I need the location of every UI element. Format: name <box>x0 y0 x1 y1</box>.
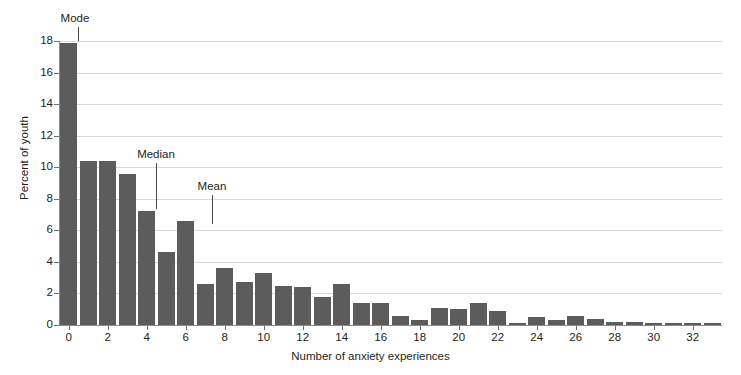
x-tick-label: 26 <box>556 331 596 343</box>
bar <box>80 161 97 325</box>
x-tick-label: 4 <box>127 331 167 343</box>
x-tick-label: 30 <box>634 331 674 343</box>
bar <box>450 309 467 325</box>
y-tick-mark <box>54 41 59 42</box>
annotation-line-median <box>156 163 157 209</box>
bar <box>372 303 389 325</box>
bar <box>255 273 272 325</box>
x-tick-label: 22 <box>478 331 518 343</box>
y-tick-label: 6 <box>47 224 53 235</box>
y-tick-mark <box>54 293 59 294</box>
x-tick-mark <box>186 326 187 330</box>
x-tick-mark <box>654 326 655 330</box>
bar <box>138 211 155 325</box>
gridline <box>59 230 722 231</box>
bar <box>119 174 136 325</box>
bar-chart-figure: Percent of youth 024681012141618 0246810… <box>0 0 741 375</box>
x-tick-mark <box>147 326 148 330</box>
x-tick-mark <box>459 326 460 330</box>
y-axis-line <box>59 41 60 325</box>
x-tick-label: 0 <box>49 331 89 343</box>
x-tick-mark <box>264 326 265 330</box>
x-tick-mark <box>381 326 382 330</box>
x-tick-label: 10 <box>244 331 284 343</box>
bar <box>567 316 584 325</box>
bar <box>236 282 253 325</box>
bar <box>353 303 370 325</box>
bar <box>431 308 448 325</box>
x-tick-mark <box>342 326 343 330</box>
annotation-label-median: Median <box>137 148 175 160</box>
bar <box>216 268 233 325</box>
annotation-line-mode <box>78 27 79 41</box>
bar <box>275 286 292 325</box>
bar <box>99 161 116 325</box>
x-tick-label: 6 <box>166 331 206 343</box>
x-tick-label: 18 <box>400 331 440 343</box>
annotation-line-mean <box>212 195 213 224</box>
x-tick-mark <box>537 326 538 330</box>
y-tick-label: 0 <box>47 319 53 330</box>
x-tick-mark <box>225 326 226 330</box>
y-tick-label: 12 <box>40 130 53 141</box>
x-tick-label: 28 <box>595 331 635 343</box>
x-tick-mark <box>108 326 109 330</box>
gridline <box>59 104 722 105</box>
gridline <box>59 167 722 168</box>
y-tick-label: 16 <box>40 67 53 78</box>
y-tick-mark <box>54 136 59 137</box>
y-tick-label: 2 <box>47 287 53 298</box>
y-tick-label: 4 <box>47 256 53 267</box>
x-tick-mark <box>420 326 421 330</box>
x-axis-line <box>59 325 722 326</box>
y-tick-mark <box>54 262 59 263</box>
y-tick-mark <box>54 230 59 231</box>
x-tick-mark <box>576 326 577 330</box>
bar <box>528 317 545 325</box>
bar <box>177 221 194 325</box>
annotation-label-mode: Mode <box>61 12 90 24</box>
x-tick-label: 20 <box>439 331 479 343</box>
plot-area <box>59 41 722 325</box>
x-tick-label: 24 <box>517 331 557 343</box>
annotation-label-mean: Mean <box>198 180 227 192</box>
y-tick-mark <box>54 104 59 105</box>
bar <box>489 311 506 325</box>
x-tick-label: 12 <box>283 331 323 343</box>
bar <box>314 297 331 325</box>
bar <box>158 252 175 325</box>
y-tick-label: 8 <box>47 193 53 204</box>
y-tick-mark <box>54 73 59 74</box>
gridline <box>59 136 722 137</box>
x-tick-label: 32 <box>673 331 713 343</box>
x-axis-title: Number of anxiety experiences <box>0 350 741 362</box>
bar <box>197 284 214 325</box>
gridline <box>59 199 722 200</box>
y-tick-mark <box>54 199 59 200</box>
bar <box>294 287 311 325</box>
gridline <box>59 41 722 42</box>
y-tick-label: 18 <box>40 35 53 46</box>
y-axis-tick-labels: 024681012141618 <box>0 0 53 375</box>
x-tick-label: 8 <box>205 331 245 343</box>
y-tick-label: 14 <box>40 98 53 109</box>
bar <box>392 316 409 325</box>
y-tick-mark <box>54 167 59 168</box>
x-tick-mark <box>498 326 499 330</box>
x-tick-mark <box>615 326 616 330</box>
x-tick-label: 14 <box>322 331 362 343</box>
y-tick-label: 10 <box>40 161 53 172</box>
bar <box>470 303 487 325</box>
y-tick-mark <box>54 325 59 326</box>
x-tick-mark <box>693 326 694 330</box>
x-tick-label: 16 <box>361 331 401 343</box>
x-tick-mark <box>303 326 304 330</box>
x-tick-label: 2 <box>88 331 128 343</box>
bar <box>60 43 77 325</box>
x-tick-mark <box>69 326 70 330</box>
bar <box>333 284 350 325</box>
gridline <box>59 73 722 74</box>
